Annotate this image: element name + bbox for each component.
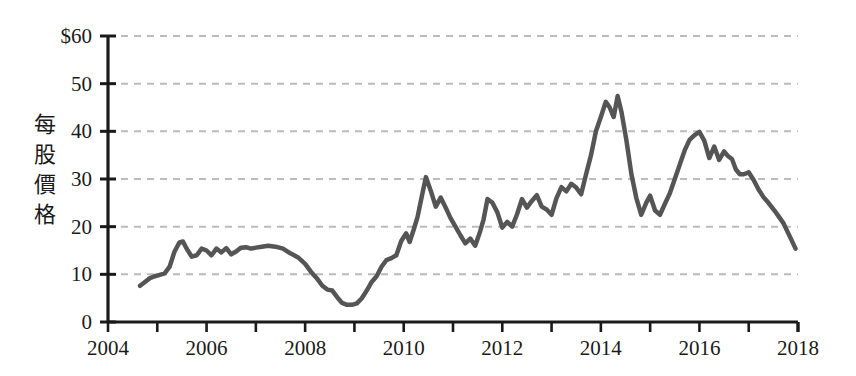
gridlines [108, 36, 798, 274]
y-tick-label: 20 [71, 215, 92, 239]
y-tick-label: 50 [71, 72, 92, 96]
x-tick-label: 2010 [383, 336, 425, 360]
x-tick-label: 2006 [186, 336, 228, 360]
x-tick-label: 2016 [678, 336, 720, 360]
y-tick-label: 0 [82, 310, 93, 334]
x-tick-label: 2018 [777, 336, 819, 360]
y-tick-label: 40 [71, 119, 92, 143]
x-tick-label: 2008 [284, 336, 326, 360]
x-tick-label: 2014 [580, 336, 623, 360]
y-tick-labels: 01020304050$60 [61, 24, 93, 334]
y-tick-label: $60 [61, 24, 93, 48]
chart-canvas: 01020304050$60 2004200620082010201220142… [0, 0, 856, 376]
x-tick-label: 2012 [481, 336, 523, 360]
x-tick-labels: 20042006200820102012201420162018 [87, 336, 819, 360]
x-tick-label: 2004 [87, 336, 130, 360]
stock-price-chart: 每 股 價 格 01020304050$60 20042006200820102… [0, 0, 856, 376]
y-tick-label: 30 [71, 167, 92, 191]
y-tick-label: 10 [71, 262, 92, 286]
